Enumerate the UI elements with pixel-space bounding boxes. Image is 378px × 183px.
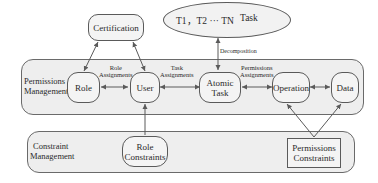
permissions-assignments-label: Permissions Assignments [240, 64, 274, 78]
task-series-label: T1，T2 ··· TN [176, 13, 234, 27]
operation-node: Operation [272, 72, 310, 103]
role-node: Role [67, 72, 100, 103]
permissions-management-label: Permissions Management [24, 76, 68, 96]
constraint-management-label: Constraint Management [30, 141, 74, 161]
permissions-constraints-node: Permissions Constraints [287, 138, 341, 168]
decomposition-label: Decomposition [220, 48, 257, 55]
atomic-task-node: Atomic Task [199, 72, 241, 103]
task-label: Task [240, 13, 258, 23]
data-node: Data [331, 72, 359, 103]
user-node: User [130, 72, 160, 103]
role-assignments-label: Role Assignments [99, 64, 133, 78]
task-assignments-label: Task Assignments [160, 64, 194, 78]
certification-node: Certification [88, 14, 144, 41]
role-constraints-node: Role Constraints [122, 136, 168, 167]
